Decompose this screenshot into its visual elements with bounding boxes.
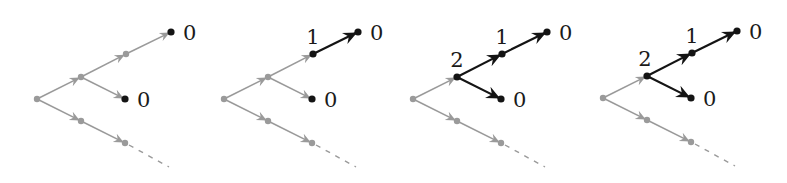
node-B-dot [688,49,695,56]
value-label-A: 2 [638,47,651,71]
node-A-dot [78,74,84,80]
edge-A-M [81,77,123,98]
node-M-dot [121,95,128,102]
panel-step-2: 001 [221,21,384,167]
value-label-T: 0 [183,21,196,45]
node-L2-dot [498,140,504,146]
node-A-dot [265,74,271,80]
edge-root-L1 [603,98,645,119]
edge-A-M [268,77,310,98]
value-label-M: 0 [324,88,337,112]
node-L2-dot [309,140,315,146]
edge-L1-L2 [647,120,689,141]
edge-continuation-dashed [695,144,735,166]
edge-root-A [413,78,455,99]
value-label-M: 0 [513,88,526,112]
value-label-B: 1 [495,25,508,49]
edge-A-B [81,55,124,77]
node-T-dot [543,28,550,35]
edge-root-A [224,78,266,99]
node-M-dot [687,94,694,101]
node-B-dot [309,50,316,57]
value-label-T: 0 [370,21,383,45]
edge-root-L1 [37,99,79,120]
node-root-dot [600,95,606,101]
edge-A-M [647,76,689,97]
node-L1-dot [265,118,271,124]
node-L1-dot [644,117,650,123]
panel-step-1: 00 [34,21,197,167]
edge-A-B [647,54,690,76]
edge-root-L1 [413,99,455,120]
node-T-dot [733,27,740,34]
edge-L1-L2 [268,121,310,142]
node-A-dot [453,73,460,80]
node-M-dot [308,95,315,102]
node-B-dot [123,51,129,57]
edge-continuation-dashed [129,145,169,167]
edge-B-T [126,33,169,54]
value-label-M: 0 [137,88,150,112]
node-L2-dot [688,139,694,145]
node-L1-dot [454,118,460,124]
panel-step-4: 0012 [600,20,763,166]
edge-continuation-dashed [316,145,356,167]
edge-L1-L2 [81,121,123,142]
value-label-T: 0 [749,20,762,44]
node-L2-dot [122,140,128,146]
node-root-dot [410,96,416,102]
node-A-dot [643,72,650,79]
game-tree-diagram: 0000100120012 [0,0,787,183]
value-label-B: 1 [306,25,319,49]
value-label-T: 0 [559,21,572,45]
value-label-B: 1 [685,24,698,48]
node-L1-dot [78,118,84,124]
edge-A-M [457,77,499,98]
edge-root-A [603,77,645,98]
panel-step-3: 0012 [410,21,573,167]
edge-continuation-dashed [505,145,545,167]
edge-L1-L2 [457,121,499,142]
edge-root-L1 [224,99,266,120]
value-label-A: 2 [450,48,463,72]
node-root-dot [221,96,227,102]
edge-root-A [37,78,79,99]
edge-A-B [268,55,311,77]
value-label-M: 0 [703,87,716,111]
node-T-dot [167,28,174,35]
node-root-dot [34,96,40,102]
node-T-dot [354,28,361,35]
panels-group: 0000100120012 [34,20,763,167]
node-B-dot [498,50,505,57]
node-M-dot [497,95,504,102]
